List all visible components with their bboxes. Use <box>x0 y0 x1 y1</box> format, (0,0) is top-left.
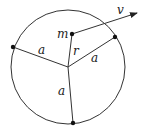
point-mass-bottom <box>71 121 75 125</box>
label-a-left: a <box>38 43 45 57</box>
radius-line-bottom <box>68 67 73 123</box>
label-r: r <box>73 44 80 58</box>
label-a-right: a <box>91 51 98 65</box>
label-v: v <box>117 3 124 17</box>
label-a-bottom: a <box>58 84 65 98</box>
distance-line-r <box>68 34 72 67</box>
ring-diagram: m v r a a a <box>0 0 149 135</box>
velocity-arrow <box>72 13 137 34</box>
label-m: m <box>57 27 68 41</box>
point-mass-left <box>11 45 15 49</box>
mass-m-dot <box>70 32 74 36</box>
point-mass-right <box>113 35 117 39</box>
